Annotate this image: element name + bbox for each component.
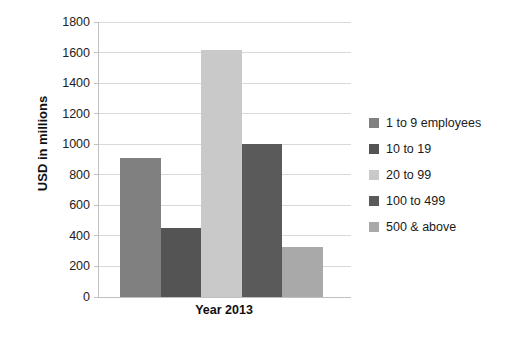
y-tick-label: 0 (30, 291, 90, 304)
legend-label: 100 to 499 (386, 195, 445, 208)
legend-item: 1 to 9 employees (369, 110, 513, 136)
y-tick-label: 1200 (30, 107, 90, 120)
bars (99, 22, 351, 297)
plot-area: 180016001400120010008006004002000 (98, 22, 350, 297)
legend-label: 1 to 9 employees (386, 117, 481, 130)
legend-item: 500 & above (369, 214, 513, 240)
y-tick-label: 1800 (30, 16, 90, 29)
legend-label: 20 to 99 (386, 169, 431, 182)
legend-item: 100 to 499 (369, 188, 513, 214)
y-tick-label: 600 (30, 199, 90, 212)
legend-item: 10 to 19 (369, 136, 513, 162)
legend: 1 to 9 employees10 to 1920 to 99100 to 4… (369, 110, 513, 240)
legend-swatch-icon (369, 222, 379, 232)
bar-10-to-19 (161, 228, 202, 298)
bar-100-to-499 (242, 144, 283, 297)
y-tick-label: 1000 (30, 138, 90, 151)
y-tick-label: 200 (30, 260, 90, 273)
legend-label: 500 & above (386, 221, 456, 234)
bar-chart: USD in millions 180016001400120010008006… (0, 0, 513, 337)
legend-swatch-icon (369, 144, 379, 154)
legend-swatch-icon (369, 118, 379, 128)
x-axis-label: Year 2013 (98, 303, 350, 317)
y-tick-label: 1400 (30, 77, 90, 90)
bar-20-to-99 (201, 50, 242, 298)
legend-label: 10 to 19 (386, 143, 431, 156)
legend-swatch-icon (369, 170, 379, 180)
y-tick-label: 400 (30, 230, 90, 243)
y-tick-label: 1600 (30, 46, 90, 59)
bar-1-to-9-employees (120, 158, 161, 297)
legend-item: 20 to 99 (369, 162, 513, 188)
y-tick-label: 800 (30, 169, 90, 182)
legend-swatch-icon (369, 196, 379, 206)
bar-500-above (282, 247, 323, 297)
